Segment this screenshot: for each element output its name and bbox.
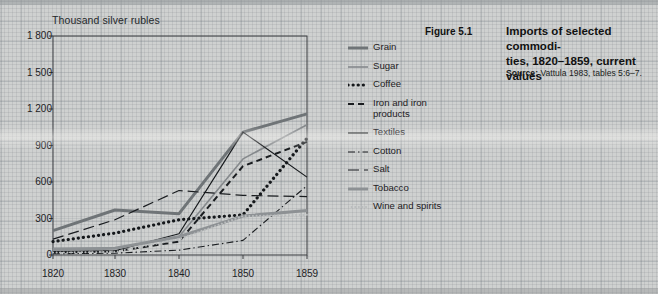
chart-series-sugar bbox=[53, 125, 307, 248]
y-tick-label: 1 200 bbox=[6, 103, 52, 114]
chart-series-group bbox=[53, 114, 307, 254]
legend-item-sugar[interactable]: Sugar bbox=[348, 59, 444, 71]
legend-swatch-icon bbox=[348, 144, 368, 156]
legend-swatch-icon bbox=[348, 96, 368, 108]
legend-swatch-icon bbox=[348, 162, 368, 174]
source-text: Vattula 1983, tables 5:6–7. bbox=[538, 68, 642, 78]
chart-series-coffee bbox=[53, 138, 307, 241]
x-tick-label: 1840 bbox=[159, 268, 199, 279]
legend-item-iron-and-iron[interactable]: Iron and iron products bbox=[348, 96, 444, 119]
y-tick-label: 600 bbox=[6, 176, 52, 187]
x-tick-marks bbox=[53, 255, 307, 259]
legend-item-label: Tobacco bbox=[373, 181, 409, 193]
figure-title-line-0: Imports of selected commodi- bbox=[506, 24, 656, 54]
y-axis-tick-labels: 03006009001 2001 5001 800 bbox=[0, 0, 52, 294]
legend-item-wine-and[interactable]: Wine and spirits bbox=[348, 199, 444, 211]
legend-item-label: Grain bbox=[373, 40, 396, 52]
legend-item-label: Cotton bbox=[373, 144, 401, 156]
legend-item-label: Textiles bbox=[373, 125, 405, 137]
legend-item-label: Iron and iron products bbox=[373, 96, 444, 119]
y-tick-label: 300 bbox=[6, 213, 52, 224]
legend-item-coffee[interactable]: Coffee bbox=[348, 77, 444, 89]
legend-item-grain[interactable]: Grain bbox=[348, 40, 444, 52]
y-tick-label: 1 500 bbox=[6, 67, 52, 78]
legend-item-salt[interactable]: Salt bbox=[348, 162, 444, 174]
x-tick-label: 1820 bbox=[33, 268, 73, 279]
legend-item-label: Wine and spirits bbox=[373, 199, 441, 211]
legend-item-label: Coffee bbox=[373, 77, 401, 89]
legend-item-cotton[interactable]: Cotton bbox=[348, 144, 444, 156]
legend-item-label: Sugar bbox=[373, 59, 399, 71]
legend-swatch-icon bbox=[348, 77, 368, 89]
legend-item-textiles[interactable]: Textiles bbox=[348, 125, 444, 137]
x-tick-label: 1859 bbox=[287, 268, 327, 279]
source-label: Source: bbox=[506, 68, 538, 78]
legend-item-tobacco[interactable]: Tobacco bbox=[348, 181, 444, 193]
figure-source: Source: Vattula 1983, tables 5:6–7. bbox=[506, 68, 658, 79]
legend-swatch-icon bbox=[348, 59, 368, 71]
legend-swatch-icon bbox=[348, 181, 368, 193]
legend-swatch-icon bbox=[348, 199, 368, 211]
x-tick-label: 1830 bbox=[95, 268, 135, 279]
x-tick-label: 1850 bbox=[223, 268, 263, 279]
chart-legend: GrainSugarCoffeeIron and iron productsTe… bbox=[348, 40, 444, 218]
figure-number: Figure 5.1 bbox=[425, 26, 472, 37]
y-tick-label: 900 bbox=[6, 140, 52, 151]
legend-item-label: Salt bbox=[373, 162, 390, 174]
y-tick-label: 1 800 bbox=[6, 30, 52, 41]
chart-series-textiles bbox=[53, 132, 307, 251]
legend-swatch-icon bbox=[348, 125, 368, 137]
y-tick-label: 0 bbox=[6, 249, 52, 260]
legend-swatch-icon bbox=[348, 40, 368, 52]
